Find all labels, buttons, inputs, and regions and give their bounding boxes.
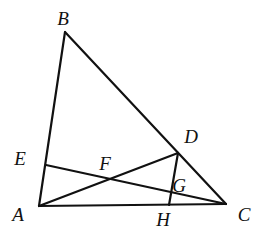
vertex-label-F: F [99, 154, 111, 173]
segments-group [39, 32, 226, 206]
vertex-label-C: C [238, 205, 251, 224]
segment-BC [65, 32, 226, 204]
vertex-label-A: A [12, 205, 24, 224]
segment-EC [46, 165, 226, 204]
segment-AC [39, 204, 226, 206]
geometry-figure: B D E F G A H C [0, 0, 266, 245]
vertex-label-E: E [14, 149, 26, 168]
segment-AB [39, 32, 65, 206]
vertex-label-H: H [156, 210, 170, 229]
vertex-label-D: D [184, 127, 198, 146]
vertex-label-B: B [57, 9, 69, 28]
geometry-canvas [0, 0, 266, 245]
vertex-label-G: G [172, 176, 186, 195]
